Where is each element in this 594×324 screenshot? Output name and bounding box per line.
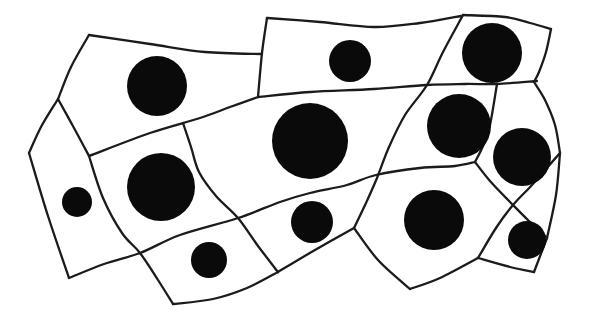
nucleus-2 <box>329 40 371 82</box>
cell-tissue-figure <box>0 0 594 324</box>
nucleus-4 <box>427 94 491 158</box>
nucleus-7 <box>62 187 92 217</box>
cell-boundary-outline-left-mid <box>29 99 58 153</box>
cell-boundary-cell12-bottom <box>478 258 534 272</box>
cell-boundary-outline-topleft-top <box>89 35 262 54</box>
nucleus-12 <box>508 221 546 259</box>
nucleus-8 <box>272 103 348 179</box>
cell-boundary-outline-left-upper <box>58 35 89 99</box>
nucleus-5 <box>493 128 551 186</box>
cell-boundary-cell2-top <box>267 16 461 27</box>
cell-boundary-cell3-right <box>534 29 551 82</box>
cell-boundary-cell3-top <box>463 15 551 29</box>
nuclei <box>62 23 551 278</box>
nucleus-9 <box>191 242 227 278</box>
nucleus-10 <box>291 201 333 243</box>
cell-boundary-cell2-left-vertical <box>258 18 267 97</box>
nucleus-11 <box>404 190 464 250</box>
cell-boundary-bottom-outline-r <box>173 272 278 304</box>
nucleus-3 <box>462 23 522 83</box>
cell-boundary-bottom-outline-t <box>410 258 478 289</box>
cell-boundary-branch-b-d <box>58 99 89 156</box>
cell-tissue-diagram <box>0 0 594 324</box>
nucleus-1 <box>127 56 187 116</box>
nucleus-6 <box>127 153 195 221</box>
cell-boundary-outline-left-lower <box>29 153 69 278</box>
cell-boundary-bottom-outline-apex <box>354 228 410 289</box>
